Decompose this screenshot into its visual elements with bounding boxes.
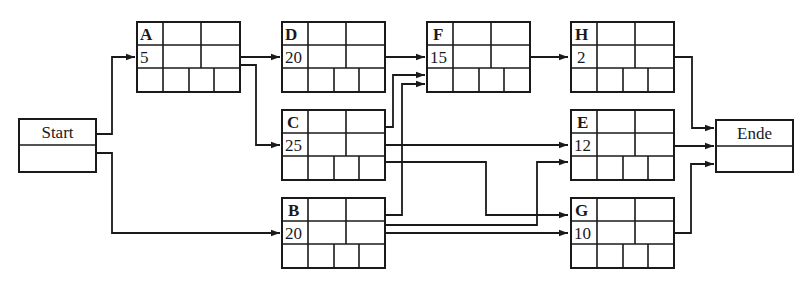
node-f: F 15 [427, 22, 530, 92]
edge-a-c [240, 65, 280, 145]
node-g-duration: 10 [574, 224, 591, 243]
edge-c-g [385, 162, 568, 215]
node-f-duration: 15 [430, 48, 447, 67]
node-e-id: E [577, 113, 588, 132]
start-node: Start [19, 119, 96, 172]
node-a-duration: 5 [140, 48, 149, 67]
node-h: H 2 [571, 22, 674, 92]
node-c-duration: 25 [285, 136, 302, 155]
network-diagram: Start Ende A 5 D 20 [0, 0, 809, 286]
node-c: C 25 [282, 110, 385, 180]
edge-g-ende [674, 164, 714, 233]
node-d: D 20 [282, 22, 385, 92]
node-a-id: A [140, 25, 153, 44]
edge-start-b [96, 153, 280, 233]
node-d-id: D [285, 25, 297, 44]
node-c-id: C [287, 113, 299, 132]
start-label: Start [41, 123, 73, 142]
edge-b-f [385, 84, 425, 215]
node-b: B 20 [282, 198, 385, 268]
node-a: A 5 [137, 22, 240, 92]
node-e: E 12 [571, 110, 674, 180]
node-f-id: F [433, 25, 443, 44]
node-b-duration: 20 [285, 224, 302, 243]
edge-c-f [385, 75, 425, 127]
edge-start-a [96, 57, 135, 134]
end-node: Ende [716, 120, 793, 172]
node-d-duration: 20 [285, 48, 302, 67]
edge-h-ende [674, 57, 714, 128]
node-e-duration: 12 [574, 136, 591, 155]
node-g-id: G [575, 201, 588, 220]
node-b-id: B [288, 201, 299, 220]
node-g: G 10 [571, 198, 674, 268]
node-h-duration: 2 [577, 48, 586, 67]
end-label: Ende [737, 124, 772, 143]
node-h-id: H [575, 25, 588, 44]
